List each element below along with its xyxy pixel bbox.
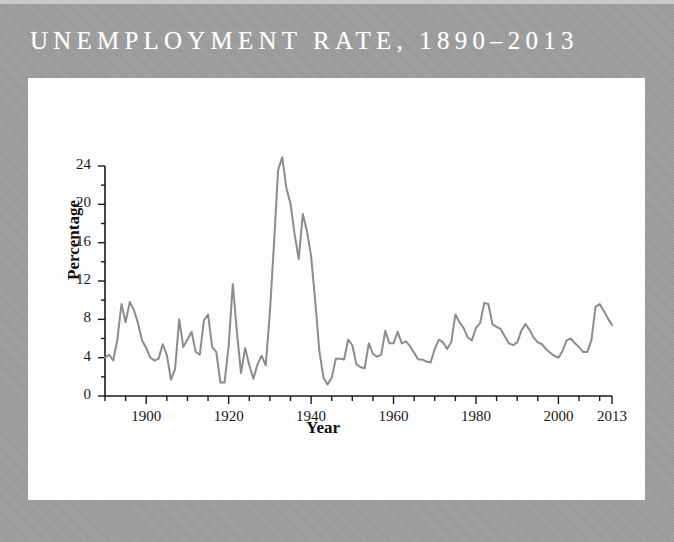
x-tick-label: 1900 <box>111 408 181 425</box>
x-axis-ticks <box>105 396 612 404</box>
x-tick-label: 1980 <box>441 408 511 425</box>
y-tick-label: 0 <box>57 386 91 403</box>
y-tick-label: 8 <box>57 309 91 326</box>
y-axis-label: Percentage <box>64 180 84 300</box>
page-title: UNEMPLOYMENT RATE, 1890–2013 <box>30 27 579 55</box>
title-band: UNEMPLOYMENT RATE, 1890–2013 <box>0 4 674 78</box>
data-series-unemployment-rate <box>105 157 612 384</box>
chart-panel: 04812162024 1900192019401960198020002013… <box>28 78 645 500</box>
y-tick-label: 4 <box>57 348 91 365</box>
x-axis-label: Year <box>243 418 403 438</box>
plot-area: 04812162024 1900192019401960198020002013… <box>28 78 645 500</box>
y-tick-label: 24 <box>57 156 91 173</box>
figure-container: UNEMPLOYMENT RATE, 1890–2013 04812162024… <box>0 0 674 542</box>
x-tick-label: 2013 <box>577 408 647 425</box>
y-axis-ticks <box>98 166 105 396</box>
